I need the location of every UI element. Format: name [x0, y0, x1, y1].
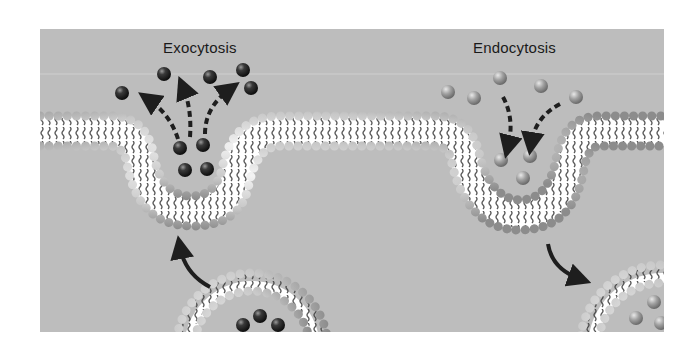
membrane-diagram	[40, 29, 664, 332]
endocytosis-arrows	[503, 97, 560, 147]
exocytosis-arrows	[148, 87, 230, 139]
pinch-off-arrow	[548, 244, 580, 279]
diagram-panel: Exocytosis Endocytosis	[40, 29, 664, 332]
endocytosis-label: Endocytosis	[473, 39, 556, 56]
cell-membrane	[40, 116, 664, 230]
endocytic-vesicle	[580, 265, 664, 332]
fusion-arrow	[180, 247, 210, 287]
exocytosis-label: Exocytosis	[163, 39, 237, 56]
